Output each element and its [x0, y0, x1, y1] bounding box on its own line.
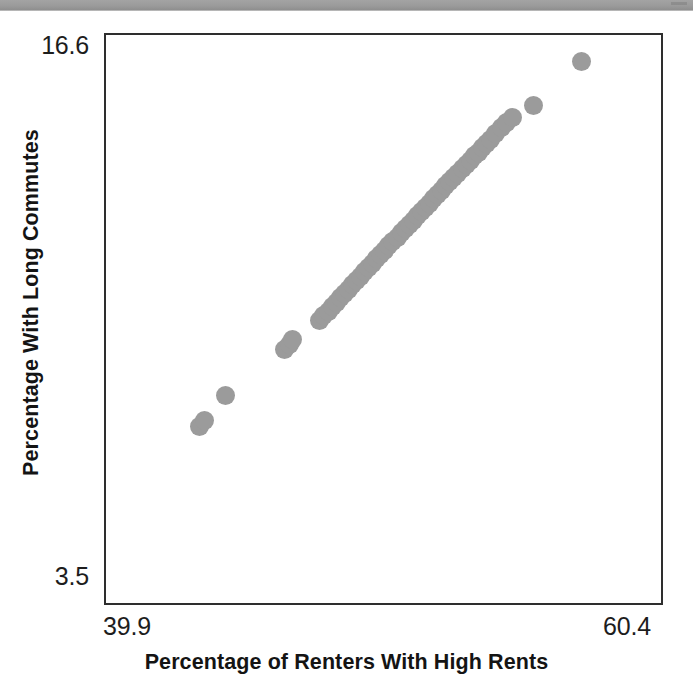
scatter-point [572, 52, 591, 71]
plot-area [106, 35, 661, 603]
y-axis-title-wrapper: Percentage With Long Commutes [0, 0, 62, 605]
plot-frame [104, 33, 663, 605]
scatter-point [524, 96, 543, 115]
x-axis-title: Percentage of Renters With High Rents [0, 650, 693, 675]
y-axis-title: Percentage With Long Commutes [19, 129, 44, 476]
scatter-point [283, 330, 302, 349]
scatter-point [195, 411, 214, 430]
x-axis-min-tick-label: 39.9 [103, 612, 151, 641]
scatter-plot-figure: 16.6 3.5 39.9 60.4 Percentage With Long … [0, 0, 693, 694]
scatter-point [216, 386, 235, 405]
scatter-point [503, 108, 522, 127]
x-axis-max-tick-label: 60.4 [603, 612, 651, 641]
